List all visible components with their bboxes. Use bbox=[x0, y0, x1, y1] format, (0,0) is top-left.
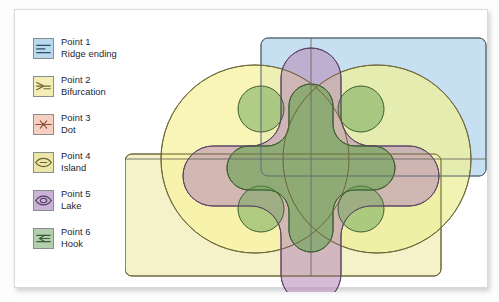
dot-icon bbox=[33, 114, 54, 135]
hook-icon bbox=[33, 228, 54, 249]
island-icon bbox=[33, 152, 54, 173]
ridge-ending-icon bbox=[33, 38, 54, 59]
legend-label-point-3: Point 3 Dot bbox=[61, 112, 91, 135]
overlap-diagram bbox=[125, 24, 497, 292]
legend-label-point-6: Point 6 Hook bbox=[61, 226, 91, 249]
legend-label-point-5: Point 5 Lake bbox=[61, 188, 91, 211]
lake-icon bbox=[33, 190, 54, 211]
legend-label-point-2: Point 2 Bifurcation bbox=[61, 74, 106, 97]
bifurcation-icon bbox=[33, 76, 54, 97]
figure-card: Point 1 Ridge ending Point 2 Bifurcation bbox=[14, 9, 488, 288]
legend-label-point-1: Point 1 Ridge ending bbox=[61, 36, 117, 59]
legend-label-point-4: Point 4 Island bbox=[61, 150, 91, 173]
diagram-canvas bbox=[125, 24, 497, 292]
figure-root: Point 1 Ridge ending Point 2 Bifurcation bbox=[0, 0, 499, 302]
